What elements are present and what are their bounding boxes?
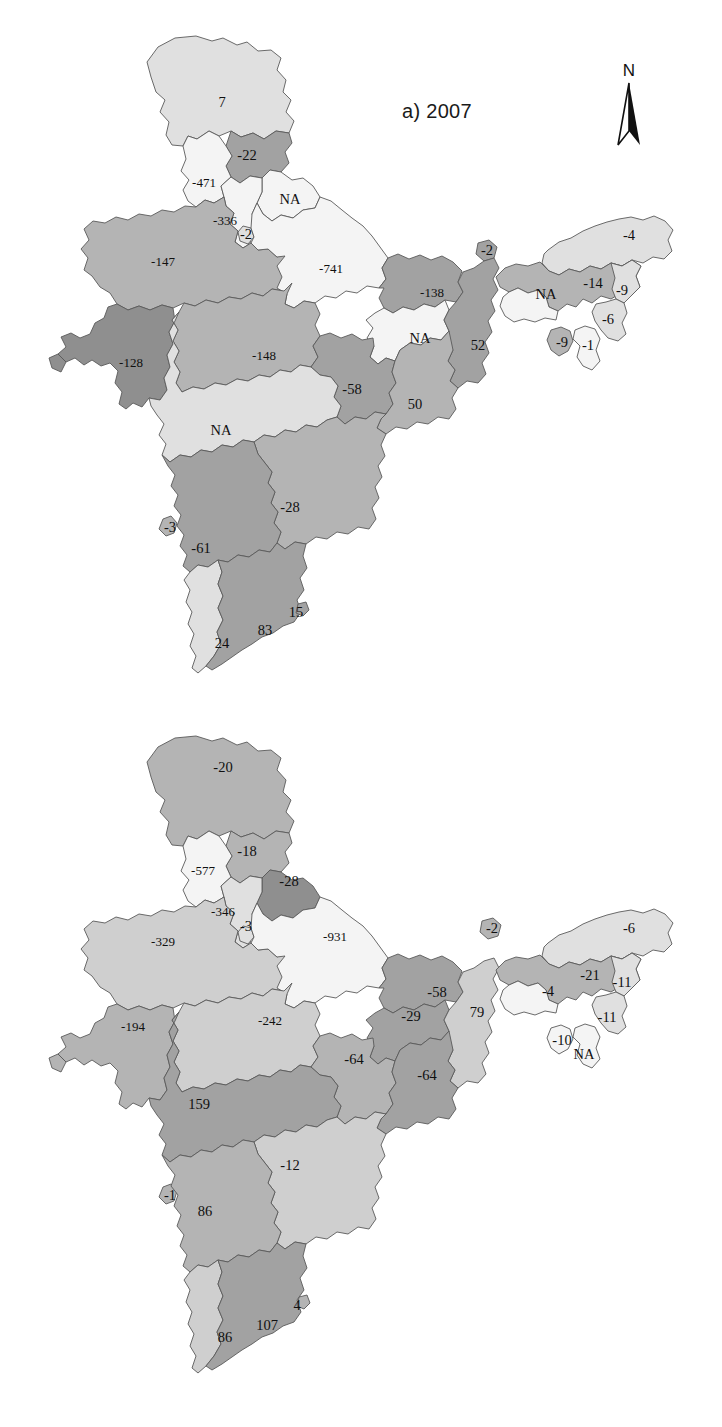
region-value-label-kerala: 86 [218,1329,233,1345]
region-jammu-kashmir[interactable] [147,36,294,146]
north-arrow-glyph [606,81,652,147]
map-panel-2007: 7-22-471NA-336-2-147-741-128-148-138-2NA… [0,0,722,700]
region-value-label-bihar: -138 [420,285,444,300]
region-value-label-uttarakhand: NA [280,191,301,207]
region-value-label-punjab: -471 [192,175,216,190]
figure-container: 7-22-471NA-336-2-147-741-128-148-138-2NA… [0,0,722,1427]
region-value-label-goa: -3 [164,519,176,535]
region-value-label-west-bengal: 79 [470,1004,485,1020]
region-tamil-nadu[interactable] [206,1242,307,1370]
region-value-label-maharashtra: NA [211,422,232,438]
region-value-label-karnataka: -61 [191,540,210,556]
region-value-label-uttar-pradesh: -741 [319,261,343,276]
region-value-label-assam: -21 [580,967,599,983]
region-value-label-mizoram: NA [574,1046,595,1062]
region-value-label-mizoram: -1 [582,337,594,353]
region-value-label-tripura: -10 [552,1032,571,1048]
region-value-label-maharashtra: 159 [188,1096,210,1112]
region-value-label-delhi: -3 [240,918,252,934]
region-value-label-haryana: -346 [211,904,235,919]
region-bihar[interactable] [379,254,463,313]
region-value-label-sikkim: -2 [481,242,493,258]
region-value-label-odisha: -64 [417,1067,437,1083]
region-value-label-bihar: -58 [427,984,446,1000]
region-value-label-uttar-pradesh: -931 [323,929,347,944]
region-value-label-telangana-andhra: -12 [280,1157,299,1173]
region-value-label-arunachal-pradesh: -4 [623,227,636,243]
region-value-label-west-bengal: 52 [471,337,486,353]
region-value-label-delhi: -2 [240,226,252,242]
region-value-label-odisha: 50 [408,396,423,412]
region-value-label-gujarat: -128 [119,355,143,370]
region-value-label-kerala: 24 [215,635,230,651]
region-value-label-chhattisgarh: -58 [342,381,361,397]
region-value-label-assam: -14 [583,275,603,291]
region-value-label-rajasthan: -329 [151,934,175,949]
map-panel-2011: -20-18-577-28-346-3-329-931-194-242-2-58… [0,700,722,1427]
region-bihar[interactable] [379,954,463,1013]
region-value-label-puducherry: 15 [289,604,304,620]
region-value-label-tripura: -9 [556,334,568,350]
region-value-label-gujarat: -194 [121,1019,145,1034]
region-value-label-karnataka: 86 [198,1203,213,1219]
region-value-label-madhya-pradesh: -242 [258,1013,282,1028]
region-value-label-arunachal-pradesh: -6 [623,920,635,936]
region-gujarat[interactable] [49,304,175,409]
region-value-label-chhattisgarh: -64 [344,1051,364,1067]
region-value-label-telangana-andhra: -28 [280,499,299,515]
region-value-label-meghalaya: NA [536,286,557,302]
region-value-label-jammu-kashmir: -20 [213,759,232,775]
region-value-label-rajasthan: -147 [151,254,175,269]
north-arrow-label: N [606,62,652,79]
region-gujarat[interactable] [49,1004,175,1109]
region-value-label-uttarakhand: -28 [279,873,298,889]
region-value-label-himachal-pradesh: -18 [237,843,256,859]
region-value-label-nagaland: -9 [616,282,628,298]
region-value-label-jharkhand: NA [410,330,431,346]
region-jammu-kashmir[interactable] [147,736,294,846]
north-arrow-icon: N [606,62,652,148]
region-value-label-jammu-kashmir: 7 [218,94,225,110]
region-value-label-haryana: -336 [213,213,237,228]
region-value-label-puducherry: 4 [293,1297,301,1313]
panel-title-2007: a) 2007 [402,100,472,123]
region-value-label-tamil-nadu: 107 [256,1317,278,1333]
region-value-label-nagaland: -11 [613,974,632,990]
region-value-label-punjab: -577 [191,863,215,878]
region-value-label-tamil-nadu: 83 [258,622,273,638]
region-value-label-meghalaya: -4 [542,983,555,999]
region-value-label-madhya-pradesh: -148 [252,348,276,363]
region-value-label-himachal-pradesh: -22 [237,147,256,163]
region-value-label-manipur: -11 [598,1009,617,1025]
region-value-label-goa: -1 [164,1187,176,1203]
region-value-label-jharkhand: -29 [401,1008,420,1024]
india-map-2011: -20-18-577-28-346-3-329-931-194-242-2-58… [0,700,722,1427]
region-value-label-sikkim: -2 [486,920,498,936]
region-value-label-manipur: -6 [602,311,614,327]
